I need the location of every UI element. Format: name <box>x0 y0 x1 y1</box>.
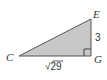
triangle-diagram: C E G 3 √29 <box>0 0 107 80</box>
triangle-ceg <box>19 19 91 56</box>
side-label-eg: 3 <box>95 32 101 43</box>
vertex-label-e: E <box>92 8 100 20</box>
vertex-label-c: C <box>6 51 14 63</box>
vertex-label-g: G <box>94 53 102 65</box>
side-label-cg: √29 <box>45 61 62 72</box>
